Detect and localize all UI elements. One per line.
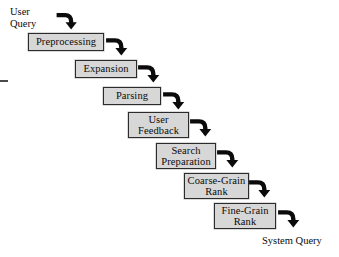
node-search-preparation[interactable]: Search Preparation (156, 143, 216, 169)
scan-artifact-dash (0, 80, 8, 82)
arrow-coarse-grain-rank-to-fine-grain-rank (247, 176, 274, 198)
arrow-search-preparation-to-coarse-grain-rank (215, 146, 242, 168)
arrow-expansion-to-parsing (136, 61, 163, 83)
node-coarse-grain-rank[interactable]: Coarse-Grain Rank (184, 173, 249, 199)
node-expansion[interactable]: Expansion (75, 60, 137, 78)
node-parsing[interactable]: Parsing (103, 87, 161, 105)
input-caption-user-query: User Query (10, 6, 36, 30)
node-preprocessing[interactable]: Preprocessing (28, 33, 104, 51)
output-caption-system-query: System Query (262, 235, 322, 247)
node-user-feedback[interactable]: User Feedback (128, 112, 189, 138)
node-fine-grain-rank[interactable]: Fine-Grain Rank (214, 203, 276, 229)
arrow-preprocessing-to-expansion (104, 34, 131, 56)
arrow-fine-grain-rank-to-system-query (276, 206, 303, 228)
arrow-parsing-to-user-feedback (161, 88, 188, 110)
arrow-user-feedback-to-search-preparation (188, 115, 215, 137)
arrow-query-to-preprocessing (55, 9, 80, 30)
diagram-canvas: User Query System Query Preprocessing Ex… (0, 0, 339, 257)
